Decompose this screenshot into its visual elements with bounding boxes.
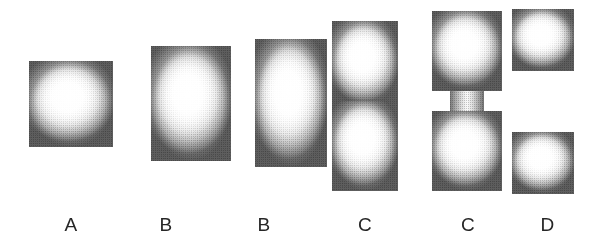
daughter-cell-lower: [512, 132, 574, 194]
stage-d-daughters: D: [494, 0, 601, 248]
shape-container-daughters: [494, 0, 601, 205]
cell-lobe-lower: [332, 101, 398, 191]
cell-division-figure: A B B: [0, 0, 601, 248]
cell-lobe-upper: [332, 21, 398, 107]
cell-lobe-lower: [432, 111, 502, 191]
grain-highlight-mask: [151, 46, 231, 161]
grain-highlight-mask: [432, 111, 502, 191]
stage-b-capsule: B: [228, 0, 300, 248]
daughter-cell-upper: [512, 9, 574, 71]
grain-highlight-mask: [29, 61, 113, 147]
grain-highlight-mask: [332, 101, 398, 191]
grain-highlight-mask: [432, 11, 502, 91]
grain-highlight-mask: [332, 21, 398, 107]
cell-ellipse-b: [151, 46, 231, 161]
stage-c-peanut: C: [306, 0, 424, 248]
stage-label-d: D: [494, 215, 601, 234]
shape-container-capsule: [228, 0, 300, 205]
shape-container-ellipse: [126, 0, 206, 205]
cell-lobe-upper: [432, 11, 502, 91]
stage-b-ellipse: B: [126, 0, 206, 248]
stage-label-b-ellipse: B: [126, 215, 206, 234]
shape-container-peanut: [306, 0, 424, 205]
stage-label-b-capsule: B: [228, 215, 300, 234]
stage-label-c-peanut: C: [306, 215, 424, 234]
cell-sphere-a: [29, 61, 113, 147]
shape-container-sphere: [0, 0, 142, 205]
stage-label-a: A: [0, 215, 142, 234]
grain-highlight-mask: [512, 9, 574, 71]
stage-a: A: [0, 0, 142, 248]
grain-highlight-mask: [512, 132, 574, 194]
